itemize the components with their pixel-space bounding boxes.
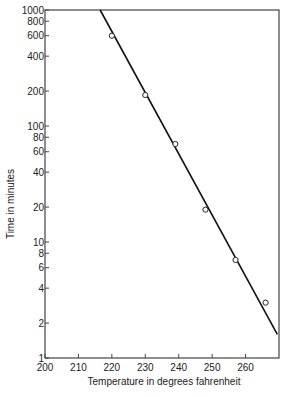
y-tick-label: 40 — [33, 167, 45, 178]
y-tick-label: 60 — [33, 146, 45, 157]
data-point — [143, 92, 148, 97]
data-point — [263, 300, 268, 305]
y-tick-label: 600 — [27, 30, 44, 41]
x-tick-label: 260 — [237, 362, 254, 373]
y-tick-label: 10 — [33, 237, 45, 248]
data-point — [203, 207, 208, 212]
y-tick-label: 800 — [27, 16, 44, 27]
y-tick-label: 2 — [38, 318, 44, 329]
plot-frame — [45, 10, 279, 358]
x-axis-title: Temperature in degrees fahrenheit — [88, 376, 241, 387]
x-tick-label: 240 — [170, 362, 187, 373]
data-point — [233, 257, 238, 262]
data-point — [173, 141, 178, 146]
fit-line — [100, 10, 277, 334]
x-tick-label: 220 — [104, 362, 121, 373]
y-tick-label: 8 — [38, 248, 44, 259]
y-axis-title: Time in minutes — [5, 169, 16, 239]
y-tick-label: 1 — [38, 353, 44, 364]
data-point — [109, 33, 114, 38]
y-tick-label: 400 — [27, 51, 44, 62]
x-tick-label: 230 — [137, 362, 154, 373]
y-tick-label: 4 — [38, 283, 44, 294]
chart: 2002102202302402502601246810204060801002… — [0, 0, 293, 397]
y-tick-label: 6 — [38, 262, 44, 273]
y-tick-label: 20 — [33, 202, 45, 213]
x-tick-label: 210 — [70, 362, 87, 373]
y-tick-label: 80 — [33, 132, 45, 143]
y-tick-label: 200 — [27, 86, 44, 97]
x-tick-label: 250 — [204, 362, 221, 373]
y-tick-label: 1000 — [22, 5, 45, 16]
y-tick-label: 100 — [27, 121, 44, 132]
x-tick-label: 200 — [37, 362, 54, 373]
